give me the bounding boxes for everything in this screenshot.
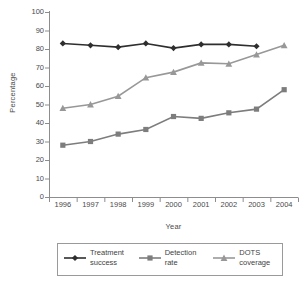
square-marker: [282, 87, 287, 92]
y-tick-label: 60: [22, 82, 44, 90]
series-line: [63, 45, 284, 108]
legend-label: Detection rate: [165, 248, 197, 267]
diamond-marker: [115, 44, 121, 50]
legend-item-3[interactable]: DOTS coverage: [207, 248, 282, 267]
y-tick-label: 10: [22, 175, 44, 183]
square-marker: [199, 116, 204, 121]
x-axis-tick-labels: 199619971998199920002001200220032004: [49, 200, 298, 214]
y-tick-label: 50: [22, 101, 44, 109]
y-tick-label: 0: [22, 193, 44, 201]
square-legend-icon: [138, 249, 162, 267]
legend-label: DOTS coverage: [239, 248, 270, 267]
y-tick-label: 40: [22, 119, 44, 127]
square-marker: [60, 143, 65, 148]
diamond-marker: [253, 43, 259, 49]
y-tick-label: 90: [22, 27, 44, 35]
y-tick-label: 100: [22, 8, 44, 16]
square-marker: [254, 107, 259, 112]
x-tick-label: 2004: [267, 200, 301, 209]
chart-figure: Percentage 0102030405060708090100 199619…: [0, 0, 308, 285]
square-marker: [116, 132, 121, 137]
y-axis-title: Percentage: [8, 53, 17, 133]
diamond-marker: [87, 42, 93, 48]
series-3: [59, 42, 287, 111]
legend-label: Treatment success: [90, 248, 124, 267]
y-tick-label: 70: [22, 64, 44, 72]
square-marker: [226, 110, 231, 115]
square-marker: [88, 139, 93, 144]
square-marker: [143, 127, 148, 132]
square-marker: [147, 255, 152, 260]
y-axis-tick-labels: 0102030405060708090100: [20, 0, 44, 209]
square-marker: [171, 114, 176, 119]
series-layer: [59, 40, 287, 147]
diamond-marker: [143, 40, 149, 46]
series-2: [60, 87, 287, 148]
chart-legend: Treatment successDetection rateDOTS cove…: [57, 243, 283, 276]
diamond-marker: [198, 41, 204, 47]
legend-item-1[interactable]: Treatment success: [58, 248, 133, 267]
y-tick-label: 20: [22, 156, 44, 164]
series-1: [60, 40, 260, 51]
diamond-marker: [170, 45, 176, 51]
chart-svg: [49, 12, 298, 197]
diamond-marker: [60, 40, 66, 46]
triangle-marker: [281, 42, 288, 48]
diamond-legend-icon: [63, 249, 87, 267]
x-axis-title: Year: [49, 222, 298, 231]
legend-item-2[interactable]: Detection rate: [133, 248, 208, 267]
diamond-marker: [226, 41, 232, 47]
y-tick-label: 30: [22, 138, 44, 146]
triangle-legend-icon: [212, 249, 236, 267]
diamond-marker: [72, 255, 78, 261]
plot-area: [49, 12, 298, 197]
y-tick-label: 80: [22, 45, 44, 53]
